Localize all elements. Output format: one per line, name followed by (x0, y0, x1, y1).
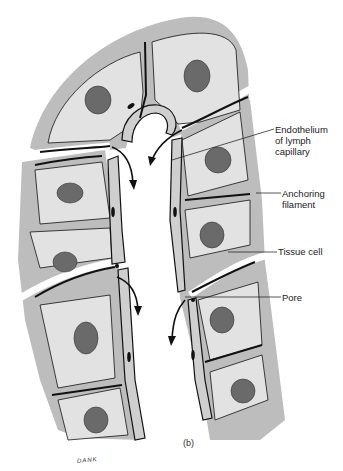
label-pore: Pore (282, 292, 302, 303)
label-tissue-cell: Tissue cell (278, 246, 323, 257)
label-line: Endothelium (275, 124, 328, 135)
label-line: Anchoring (282, 188, 325, 199)
label-line: of lymph (275, 135, 328, 146)
label-line: capillary (275, 146, 328, 157)
label-anchoring-filament: Anchoring filament (282, 188, 325, 210)
label-endothelium: Endothelium of lymph capillary (275, 124, 328, 157)
label-line: filament (282, 199, 325, 210)
lymph-capillary-diagram (0, 0, 343, 471)
figure-caption: (b) (183, 438, 194, 448)
